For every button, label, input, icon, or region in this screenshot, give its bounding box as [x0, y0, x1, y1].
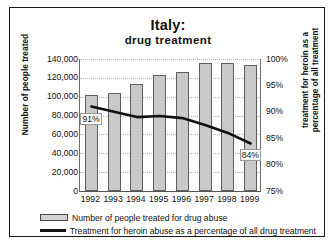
- chart-legend: Number of people treated for drug abuse …: [20, 211, 316, 237]
- x-axis-tick: 1994: [124, 194, 148, 204]
- legend-bar-label: Number of people treated for drug abuse: [72, 213, 227, 223]
- x-axis-tick: 1996: [169, 194, 193, 204]
- y-axis-right-title: treatment for heroin as a percentage of …: [301, 22, 321, 138]
- y-axis-left-tick: 80,000: [26, 111, 78, 120]
- data-label: 91%: [80, 113, 101, 125]
- y-axis-left-tick: 40,000: [26, 149, 78, 158]
- y-axis-left-tick: 0: [26, 187, 78, 196]
- y-axis-right-tick: 100%: [266, 55, 300, 64]
- y-axis-left-tick: 60,000: [26, 130, 78, 139]
- legend-item-bars: Number of people treated for drug abuse: [20, 211, 316, 224]
- y-axis-left-tick: 20,000: [26, 168, 78, 177]
- y-axis-left-tick: 120,000: [26, 73, 78, 82]
- y-axis-right-tick: 90%: [266, 107, 300, 116]
- legend-item-line: Treatment for heroin abuse as a percenta…: [20, 224, 316, 237]
- y-axis-left-tick: 140,000: [26, 55, 78, 64]
- x-axis-tick: 1997: [192, 194, 216, 204]
- y-axis-right-tick: 85%: [266, 134, 300, 143]
- y-axis-right-tick: 80%: [266, 160, 300, 169]
- legend-bar-swatch: [40, 214, 68, 221]
- x-axis-baseline: [79, 191, 261, 192]
- x-axis-tick: 1998: [215, 194, 239, 204]
- legend-line-label: Treatment for heroin abuse as a percenta…: [70, 226, 316, 236]
- x-axis-tick: 1999: [238, 194, 262, 204]
- chart-frame: Italy: drug treatment Number of people t…: [9, 7, 325, 237]
- line-series: [80, 59, 262, 191]
- y-axis-right-tick: 95%: [266, 81, 300, 90]
- legend-line-swatch: [40, 229, 66, 232]
- data-label: 84%: [240, 149, 261, 161]
- x-axis-tick: 1992: [78, 194, 102, 204]
- y-axis-right-tick: 75%: [266, 187, 300, 196]
- x-axis-tick: 1993: [101, 194, 125, 204]
- x-axis-tick: 1995: [147, 194, 171, 204]
- plot-area: [79, 59, 261, 191]
- y-axis-left-tick: 100,000: [26, 92, 78, 101]
